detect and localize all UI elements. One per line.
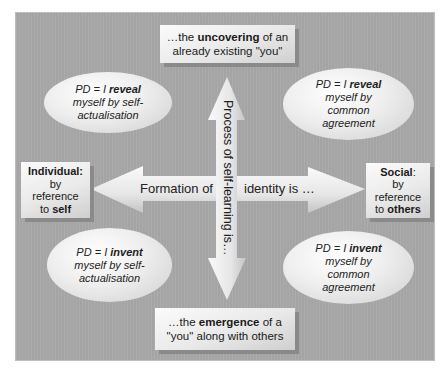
left-box-individual: Individual: by reference to self [21, 162, 90, 218]
ellipse-line: common [327, 268, 369, 281]
ellipse-line: myself by self- [73, 96, 143, 109]
right-box-line2: by [392, 178, 404, 191]
ellipse-prefix: PD = I [316, 78, 350, 90]
ellipse-bottom-right-invent: PD = I invent myself by common agreement [283, 231, 414, 304]
ellipse-line: common [327, 104, 369, 117]
top-box-suffix: of an [259, 31, 288, 43]
right-box-title: Social [380, 166, 412, 178]
ellipse-top-left-reveal: PD = I reveal myself by self- actualisat… [44, 72, 172, 133]
right-box-line4-bold: others [387, 203, 421, 215]
top-box-line2: already existing "you" [173, 44, 283, 58]
left-box-line4-prefix: to [40, 203, 52, 215]
right-box-line3: reference [375, 191, 421, 204]
ellipse-line: actualisation [77, 109, 138, 122]
ellipse-line: agreement [322, 281, 375, 294]
left-box-line3: reference [32, 190, 78, 203]
bottom-box-line2: "you" along with others [167, 329, 284, 343]
top-box-prefix: …the [167, 31, 198, 43]
bottom-box-emergence: …the emergence of a "you" along with oth… [155, 308, 295, 350]
ellipse-line: myself by self- [74, 259, 144, 272]
left-box-line4-bold: self [52, 203, 71, 215]
right-box-line4: to others [375, 203, 421, 216]
ellipse-bold: invent [349, 242, 381, 254]
left-box-line2: by [50, 178, 62, 191]
ellipse-bold: reveal [109, 83, 141, 95]
top-box-uncovering: …the uncovering of an already existing "… [160, 25, 295, 63]
horizontal-arrow-left-label: Formation of [140, 181, 213, 196]
ellipse-top-right-line1: PD = I reveal [316, 78, 382, 91]
bottom-box-bold: emergence [199, 316, 260, 328]
ellipse-bold: reveal [350, 78, 382, 90]
left-box-line4: to self [40, 203, 71, 216]
ellipse-prefix: PD = I [76, 246, 110, 258]
ellipse-bottom-left-invent: PD = I invent myself by self- actualisat… [47, 228, 172, 302]
horizontal-arrow-right-label: identity is … [244, 181, 315, 196]
ellipse-top-right-reveal: PD = I reveal myself by common agreement [283, 68, 414, 140]
ellipse-top-left-line1: PD = I reveal [75, 83, 141, 96]
top-box-line1: …the uncovering of an [167, 30, 288, 44]
ellipse-bottom-right-line1: PD = I invent [315, 242, 381, 255]
right-box-title-suffix: : [413, 166, 416, 178]
ellipse-prefix: PD = I [75, 83, 109, 95]
right-box-title-line: Social: [380, 166, 415, 179]
ellipse-line: myself by [325, 255, 371, 268]
ellipse-line: agreement [322, 117, 375, 130]
left-box-title: Individual: [28, 165, 83, 178]
ellipse-line: myself by [325, 91, 371, 104]
ellipse-bottom-left-line1: PD = I invent [76, 246, 142, 259]
top-box-bold: uncovering [197, 31, 259, 43]
ellipse-bold: invent [110, 246, 142, 258]
right-box-social: Social: by reference to others [366, 163, 430, 218]
ellipse-prefix: PD = I [315, 242, 349, 254]
bottom-box-prefix: …the [168, 316, 199, 328]
bottom-box-suffix: of a [260, 316, 282, 328]
ellipse-line: actualisation [79, 272, 140, 285]
right-box-line4-prefix: to [375, 203, 387, 215]
vertical-arrow-label: Process of self-learning is… [221, 100, 235, 256]
bottom-box-line1: …the emergence of a [168, 315, 282, 329]
